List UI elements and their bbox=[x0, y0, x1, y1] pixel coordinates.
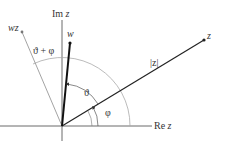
wz-label: wz bbox=[8, 22, 19, 33]
imag-axis-label: Im z bbox=[52, 8, 70, 19]
theta-label: ϑ bbox=[84, 87, 89, 98]
theta-arc bbox=[67, 84, 98, 104]
theta-plus-phi-label: ϑ + φ bbox=[33, 45, 55, 56]
z-vector bbox=[62, 40, 204, 126]
w-label: w bbox=[67, 28, 74, 39]
phi-arc bbox=[93, 107, 98, 126]
z-label: z bbox=[206, 30, 211, 41]
wz-point bbox=[21, 31, 24, 34]
diagram-canvas: Im z Re z z w wz |z| ϑ φ ϑ + φ bbox=[0, 0, 236, 141]
phi-label: φ bbox=[105, 107, 111, 118]
modulus-label: |z| bbox=[150, 57, 158, 68]
real-axis-label: Re z bbox=[154, 120, 172, 131]
phi-arc-inner bbox=[88, 111, 92, 126]
w-point bbox=[68, 41, 71, 44]
z-point bbox=[202, 38, 205, 41]
complex-multiplication-diagram: Im z Re z z w wz |z| ϑ φ ϑ + φ bbox=[0, 0, 236, 141]
